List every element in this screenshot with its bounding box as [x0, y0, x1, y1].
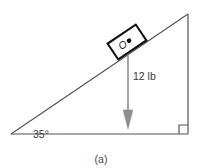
- inclined-plane-diagram: 35° 12 lb O (a): [0, 0, 203, 168]
- angle-label: 35°: [33, 128, 49, 140]
- force-vector-arrowhead-icon: [123, 110, 133, 129]
- triangle-outline: [11, 14, 188, 134]
- right-angle-marker-icon: [179, 125, 188, 134]
- force-vector: [123, 52, 133, 129]
- block-body: [108, 25, 147, 60]
- figure-container: 35° 12 lb O (a): [0, 0, 203, 168]
- force-magnitude-label: 12 lb: [133, 70, 156, 82]
- figure-caption: (a): [95, 153, 108, 165]
- block-on-incline: O: [108, 25, 147, 60]
- incline-surface-line: [11, 14, 188, 134]
